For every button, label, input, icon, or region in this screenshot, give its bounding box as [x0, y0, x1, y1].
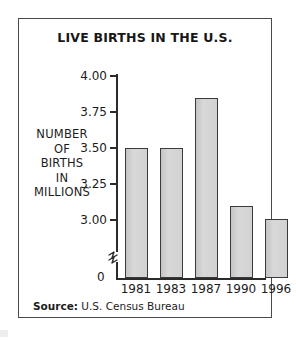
y-axis-line — [116, 74, 118, 252]
x-tick-label-1990: 1990 — [224, 283, 258, 295]
source-label: Source: — [33, 300, 78, 312]
y-axis-zero-label: 0 — [97, 271, 105, 283]
x-tick-label-1983: 1983 — [154, 283, 188, 295]
y-tick-label-4-00: 4.00 — [55, 70, 107, 82]
page-artifact — [0, 330, 8, 337]
y-axis-caption-line-2: OF — [25, 142, 99, 157]
y-tick-mark-3-00 — [110, 219, 118, 221]
y-axis-caption-line-1: NUMBER — [25, 127, 99, 142]
bar-1996 — [265, 219, 288, 278]
x-tick-label-1981: 1981 — [119, 283, 153, 295]
chart-figure: LIVE BIRTHS IN THE U.S. 4.00 3.75 3.50 3… — [18, 18, 272, 318]
y-axis-caption: NUMBER OF BIRTHS IN MILLIONS — [25, 127, 99, 200]
y-axis-caption-line-4: IN — [25, 171, 99, 186]
y-tick-mark-3-25 — [110, 183, 118, 185]
y-tick-mark-4-00 — [110, 75, 118, 77]
bar-1987 — [195, 98, 218, 278]
bar-1990 — [230, 206, 253, 278]
source-value: U.S. Census Bureau — [81, 300, 184, 312]
bar-1983 — [160, 148, 183, 278]
bar-1981 — [125, 148, 148, 278]
x-tick-label-1987: 1987 — [189, 283, 223, 295]
y-tick-mark-3-75 — [110, 111, 118, 113]
plot-area: 4.00 3.75 3.50 3.25 3.00 0 NUMBER OF BIR… — [19, 19, 273, 319]
x-tick-label-1996: 1996 — [259, 283, 293, 295]
source-note: Source: U.S. Census Bureau — [33, 300, 185, 312]
x-axis-line — [116, 278, 266, 280]
y-tick-label-3-00: 3.00 — [55, 214, 107, 226]
y-tick-mark-3-50 — [110, 147, 118, 149]
y-tick-label-3-75: 3.75 — [55, 106, 107, 118]
y-axis-caption-line-3: BIRTHS — [25, 156, 99, 171]
y-axis-caption-line-5: MILLIONS — [25, 185, 99, 200]
axis-break-icon — [108, 251, 122, 267]
